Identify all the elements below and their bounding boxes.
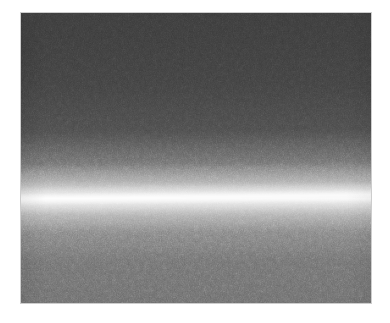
image-figure [21, 13, 371, 303]
grain-noise-coarse-svg [21, 13, 371, 303]
page-canvas [0, 0, 390, 323]
film-grain-coarse-layer [21, 13, 371, 303]
